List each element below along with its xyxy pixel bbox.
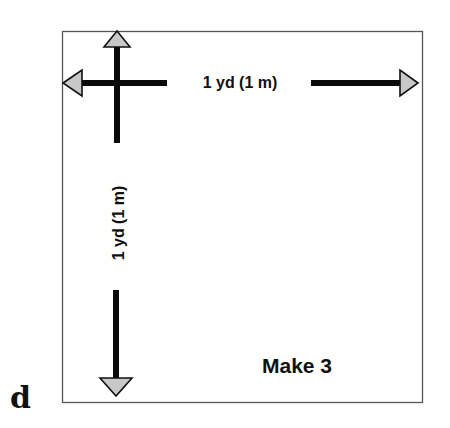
height-arrow-shaft-top (114, 46, 120, 143)
width-arrow-shaft-right (311, 80, 402, 86)
arrowhead-up-icon (104, 31, 130, 47)
quantity-note: Make 3 (262, 353, 332, 379)
arrowhead-right-icon (400, 70, 418, 96)
panel-letter: d (10, 380, 31, 416)
height-dimension-label: 1 yd (1 m) (109, 186, 129, 261)
height-arrow-shaft-bottom (113, 290, 119, 378)
arrowhead-down-icon (100, 378, 132, 396)
pattern-diagram: 1 yd (1 m) 1 yd (1 m) Make 3 d (0, 0, 450, 428)
width-dimension-label: 1 yd (1 m) (189, 73, 291, 93)
arrowhead-left-icon (63, 70, 82, 96)
width-arrow-shaft-left (80, 80, 167, 86)
pattern-square-drawing (0, 0, 450, 428)
